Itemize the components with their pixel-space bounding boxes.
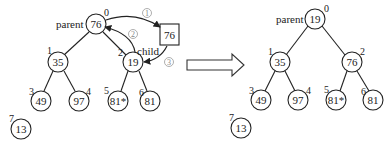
node-value: 35	[53, 56, 65, 68]
child-label: child	[137, 45, 159, 57]
node-index: 7	[9, 113, 14, 124]
node-6: 81 6	[139, 87, 160, 111]
node-1: 35 1	[47, 45, 68, 72]
parent-label: parent	[56, 18, 83, 30]
node-0: 76 0	[86, 7, 109, 34]
node-index: 6	[139, 87, 144, 98]
node-0: 19 0	[305, 3, 329, 29]
edge-0-1	[286, 26, 308, 55]
step-2-label: 2	[129, 30, 138, 40]
parent-label: parent	[276, 13, 303, 25]
node-index: 2	[118, 47, 123, 58]
node-index: 4	[86, 86, 91, 97]
step-3-label: 3	[165, 58, 174, 68]
node-value: 81*	[110, 95, 127, 107]
node-index: 4	[306, 85, 311, 96]
right-arrow-icon	[187, 54, 244, 76]
temp-box: 76	[160, 24, 179, 45]
edge-1-4	[64, 71, 75, 91]
node-index: 1	[268, 46, 273, 57]
node-index: 5	[324, 84, 329, 95]
node-index: 3	[29, 86, 34, 97]
node-value: 81*	[328, 94, 345, 106]
node-index: 1	[47, 45, 52, 56]
edge-1-3	[265, 71, 275, 91]
heap-after: 19 0 parent 35 1 76 2 49 3 97 4	[229, 3, 383, 138]
node-index: 3	[249, 85, 254, 96]
node-value: 76	[91, 18, 103, 30]
node-index: 7	[229, 112, 234, 123]
node-value: 76	[347, 56, 359, 68]
node-value: 19	[310, 13, 322, 25]
node-value: 97	[293, 94, 305, 106]
node-value: 13	[16, 123, 28, 135]
edge-2-5	[121, 71, 128, 91]
node-4: 97 4	[288, 85, 311, 110]
node-value: 19	[128, 56, 140, 68]
node-6: 81 6	[361, 86, 383, 110]
edge-2-5	[340, 71, 347, 91]
heap-before: 76 0 parent 35 1 19 2 child 49 3 97 4	[9, 7, 179, 139]
node-5: 81* 5	[104, 85, 128, 111]
edge-1-3	[44, 71, 53, 91]
node-index: 0	[104, 7, 109, 18]
node-4: 97 4	[69, 86, 91, 111]
node-1: 35 1	[268, 46, 290, 72]
node-value: 49	[36, 95, 48, 107]
node-value: 35	[275, 56, 287, 68]
step-1-arrow	[106, 16, 160, 27]
svg-text:3: 3	[167, 58, 171, 67]
temp-value: 76	[164, 29, 176, 41]
node-index: 6	[361, 86, 366, 97]
node-value: 49	[256, 94, 268, 106]
node-7: 13 7	[229, 112, 251, 138]
node-index: 5	[104, 85, 109, 96]
node-value: 81	[368, 94, 379, 106]
node-3: 49 3	[29, 86, 51, 111]
edge-0-2	[322, 26, 345, 55]
node-value: 81	[145, 95, 156, 107]
heap-diagram: 76 0 parent 35 1 19 2 child 49 3 97 4	[0, 0, 387, 143]
node-5: 81* 5	[324, 84, 346, 110]
node-index: 0	[324, 3, 329, 14]
node-7: 13 7	[9, 113, 31, 139]
edge-1-4	[285, 71, 295, 91]
node-2: 76 2	[342, 46, 365, 72]
node-index: 2	[360, 46, 365, 57]
step-1-label: 1	[143, 9, 152, 19]
node-3: 49 3	[249, 85, 271, 110]
svg-text:1: 1	[145, 9, 149, 18]
svg-text:2: 2	[131, 30, 135, 39]
node-value: 13	[236, 122, 248, 134]
edge-0-1	[64, 32, 89, 55]
node-value: 97	[74, 95, 86, 107]
